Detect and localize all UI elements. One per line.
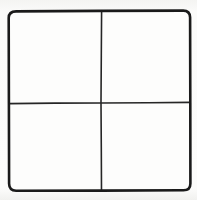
quadrant-top-left (9, 11, 101, 103)
quadrant-bottom-left (9, 103, 101, 190)
quadrant-bottom-right (101, 103, 190, 190)
quadrant-diagram-figure (0, 0, 197, 200)
quadrant-top-right (101, 11, 190, 103)
